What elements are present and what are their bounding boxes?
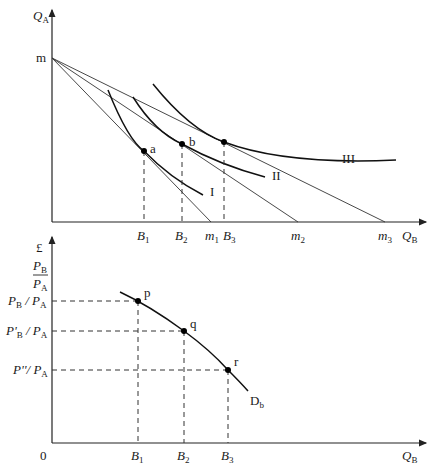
y-axis-fraction-label: PB PA <box>32 258 48 293</box>
tangency-point-a <box>141 148 147 154</box>
point-label-b: b <box>189 134 196 149</box>
demand-point-r <box>225 367 231 373</box>
price-consumption-demand-diagram: QA QB m I II III a b B1 B2 B3 m1 m2 m3 <box>0 0 436 471</box>
income-intercept-label: m <box>36 50 46 65</box>
x-axis-label-qb: QB <box>402 228 417 245</box>
tick-label-B1: B1 <box>137 228 149 245</box>
tick-label-m2: m2 <box>291 228 305 245</box>
point-label-p: p <box>144 285 151 300</box>
curve-label-III: III <box>342 151 355 166</box>
svg-text:PB: PB <box>32 258 47 275</box>
tick-label-m1: m1 <box>205 228 219 245</box>
demand-point-q <box>181 328 187 334</box>
tick-label-m3: m3 <box>378 228 392 245</box>
y-axis-label-qa: QA <box>33 8 49 25</box>
origin-label: 0 <box>40 448 47 463</box>
top-panel: QA QB m I II III a b B1 B2 B3 m1 m2 m3 <box>33 8 426 245</box>
price-label-Pdoubleprime: P''/ PA <box>12 362 48 379</box>
demand-curve-label: Db <box>250 393 264 410</box>
price-label-PB: PB / PA <box>7 293 47 310</box>
tick-label-B2: B2 <box>175 228 187 245</box>
tangency-point-b <box>179 141 185 147</box>
tangency-point-c <box>221 139 227 145</box>
currency-label: £ <box>36 240 43 255</box>
curve-label-II: II <box>272 168 281 183</box>
indifference-curve-II <box>133 97 265 177</box>
bottom-tick-B3: B3 <box>221 448 234 465</box>
point-label-q: q <box>190 316 197 331</box>
bottom-tick-B1: B1 <box>131 448 143 465</box>
point-label-r: r <box>234 354 239 369</box>
price-label-PprimeB: P'B / PA <box>5 323 48 340</box>
bottom-panel: £ PB PA PB / PA P'B / PA P''/ PA p q r D… <box>5 237 426 465</box>
budget-line-m1 <box>52 58 211 222</box>
demand-point-p <box>135 298 141 304</box>
svg-text:PA: PA <box>32 276 48 293</box>
curve-label-I: I <box>210 184 214 199</box>
bottom-tick-B2: B2 <box>177 448 189 465</box>
point-label-a: a <box>150 141 156 156</box>
bottom-x-axis-label-qb: QB <box>402 448 417 465</box>
tick-label-B3: B3 <box>223 228 236 245</box>
